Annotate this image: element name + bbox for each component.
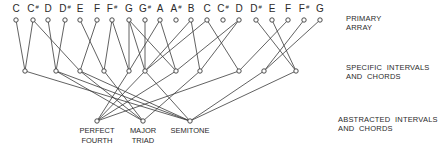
note-label: G <box>125 3 133 14</box>
pitch-hierarchy-diagram: CC#DD#EFF#GG#AA#BCC#DD#EFF#G PRIMARY ARR… <box>0 0 441 151</box>
primary-node <box>302 18 306 22</box>
connection-line <box>80 20 104 71</box>
connection-line <box>239 20 288 71</box>
specific-node <box>102 69 106 73</box>
note-label: C# <box>27 3 39 14</box>
connection-line <box>56 71 143 121</box>
sharp-sign: # <box>35 4 38 10</box>
connection-line <box>129 20 145 71</box>
sharp-sign: # <box>258 4 261 10</box>
note-label: G <box>316 3 324 14</box>
sharp-sign: # <box>67 4 70 10</box>
note-label: C <box>203 3 210 14</box>
abstracted-node-label: PERFECT FOURTH <box>79 126 114 146</box>
sharp-sign: # <box>148 4 151 10</box>
primary-node <box>95 18 99 22</box>
connection-line <box>80 20 97 71</box>
abstracted-node <box>188 119 192 123</box>
note-label: B <box>188 3 195 14</box>
note-label: F <box>285 3 291 14</box>
primary-node <box>31 18 35 22</box>
connection-line <box>80 71 143 121</box>
specific-node <box>78 69 82 73</box>
specific-node <box>174 69 178 73</box>
connection-line <box>56 20 65 71</box>
connection-line <box>207 20 239 71</box>
primary-node <box>189 18 193 22</box>
primary-node <box>286 18 290 22</box>
connection-line <box>190 71 296 121</box>
specific-intervals-label: SPECIFIC INTERVALS AND CHORDS <box>346 63 430 81</box>
primary-node <box>237 18 241 22</box>
primary-node <box>46 18 50 22</box>
connection-line <box>48 20 56 71</box>
abstracted-node-label: SEMITONE <box>170 126 209 136</box>
primary-node <box>270 18 274 22</box>
primary-array-label: PRIMARY ARRAY <box>346 14 381 32</box>
primary-node <box>254 18 258 22</box>
note-label: C <box>12 3 19 14</box>
specific-node <box>143 69 147 73</box>
sharp-sign: # <box>306 4 309 10</box>
note-label: D <box>44 3 51 14</box>
specific-node <box>262 69 266 73</box>
specific-node <box>237 69 241 73</box>
connection-line <box>25 71 190 121</box>
sharp-sign: # <box>114 4 117 10</box>
note-label: F# <box>107 3 117 14</box>
connection-line <box>104 20 112 71</box>
note-label: A# <box>170 3 181 14</box>
specific-node <box>127 69 131 73</box>
primary-node <box>14 18 18 22</box>
connection-line <box>145 20 207 71</box>
primary-node <box>205 18 209 22</box>
connection-line <box>97 71 145 121</box>
connection-line <box>16 20 25 71</box>
connection-line <box>200 20 239 71</box>
abstracted-node <box>95 119 99 123</box>
specific-node <box>294 69 298 73</box>
note-label: A <box>157 3 164 14</box>
note-label: F# <box>299 3 309 14</box>
note-label: E <box>269 3 276 14</box>
connection-line <box>145 20 191 71</box>
primary-node <box>78 18 82 22</box>
primary-node <box>174 18 178 22</box>
specific-node <box>23 69 27 73</box>
note-label: F <box>94 3 100 14</box>
note-label: D# <box>59 3 71 14</box>
note-label: E <box>77 3 84 14</box>
primary-node <box>221 18 225 22</box>
primary-node <box>158 18 162 22</box>
abstracted-intervals-label: ABSTRACTED INTERVALS AND CHORDS <box>338 115 438 133</box>
connection-line <box>191 20 200 71</box>
abstracted-node <box>141 119 145 123</box>
primary-node <box>318 18 322 22</box>
primary-node <box>63 18 67 22</box>
specific-node <box>54 69 58 73</box>
sharp-sign: # <box>225 4 228 10</box>
connection-line <box>33 20 80 71</box>
connection-line <box>112 20 129 71</box>
connection-line <box>25 20 33 71</box>
abstracted-node-label: MAJOR TRIAD <box>130 126 156 146</box>
note-label: D <box>235 3 242 14</box>
note-label: D# <box>250 3 262 14</box>
connection-line <box>97 71 129 121</box>
connection-line <box>80 71 190 121</box>
sharp-sign: # <box>178 4 181 10</box>
connection-line <box>129 20 160 71</box>
primary-node <box>143 18 147 22</box>
connection-line <box>190 71 264 121</box>
primary-node <box>110 18 114 22</box>
note-label: C# <box>217 3 229 14</box>
specific-node <box>198 69 202 73</box>
connection-line <box>176 20 239 71</box>
connection-line <box>129 20 176 71</box>
connection-line <box>264 20 304 71</box>
note-label: G# <box>139 3 151 14</box>
primary-node <box>127 18 131 22</box>
